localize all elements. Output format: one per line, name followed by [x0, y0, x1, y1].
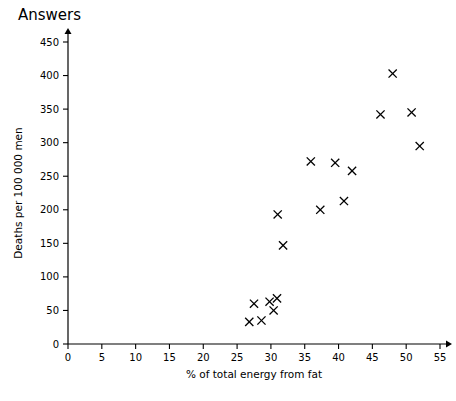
x-tick-label: 35	[298, 352, 311, 363]
data-point	[274, 210, 282, 218]
data-point	[340, 197, 348, 205]
chart-svg: 0510152025303540455055050100150200250300…	[0, 26, 456, 401]
x-tick-label: 55	[434, 352, 447, 363]
x-axis-label: % of total energy from fat	[186, 368, 322, 380]
y-tick-label: 50	[46, 305, 59, 316]
data-point	[307, 157, 315, 165]
x-tick-label: 5	[99, 352, 105, 363]
data-point	[250, 300, 258, 308]
y-axis-label: Deaths per 100 000 men	[12, 127, 24, 258]
x-tick-label: 0	[65, 352, 71, 363]
x-tick-label: 20	[197, 352, 210, 363]
data-point	[348, 167, 356, 175]
x-tick-label: 25	[231, 352, 244, 363]
data-point	[279, 241, 287, 249]
y-tick-label: 150	[40, 238, 59, 249]
data-point	[376, 110, 384, 118]
x-tick-label: 30	[265, 352, 278, 363]
y-tick-label: 300	[40, 137, 59, 148]
data-point	[245, 318, 253, 326]
data-point	[389, 69, 397, 77]
y-tick-label: 100	[40, 271, 59, 282]
data-point	[416, 142, 424, 150]
data-point	[257, 316, 265, 324]
scatter-chart: 0510152025303540455055050100150200250300…	[0, 26, 456, 401]
y-tick-label: 450	[40, 37, 59, 48]
x-tick-label: 15	[163, 352, 176, 363]
y-tick-label: 400	[40, 70, 59, 81]
page-title: Answers	[18, 6, 81, 24]
y-tick-label: 200	[40, 204, 59, 215]
y-tick-label: 250	[40, 171, 59, 182]
x-axis-arrow	[446, 341, 452, 348]
x-tick-label: 40	[332, 352, 345, 363]
y-axis-arrow	[65, 28, 72, 34]
x-tick-label: 10	[129, 352, 142, 363]
data-point	[331, 159, 339, 167]
data-point	[407, 108, 415, 116]
data-point	[316, 206, 324, 214]
data-point	[270, 306, 278, 314]
x-tick-label: 45	[366, 352, 379, 363]
data-point	[265, 298, 273, 306]
data-point	[273, 294, 281, 302]
y-tick-label: 350	[40, 104, 59, 115]
y-tick-label: 0	[53, 339, 59, 350]
x-tick-label: 50	[400, 352, 413, 363]
